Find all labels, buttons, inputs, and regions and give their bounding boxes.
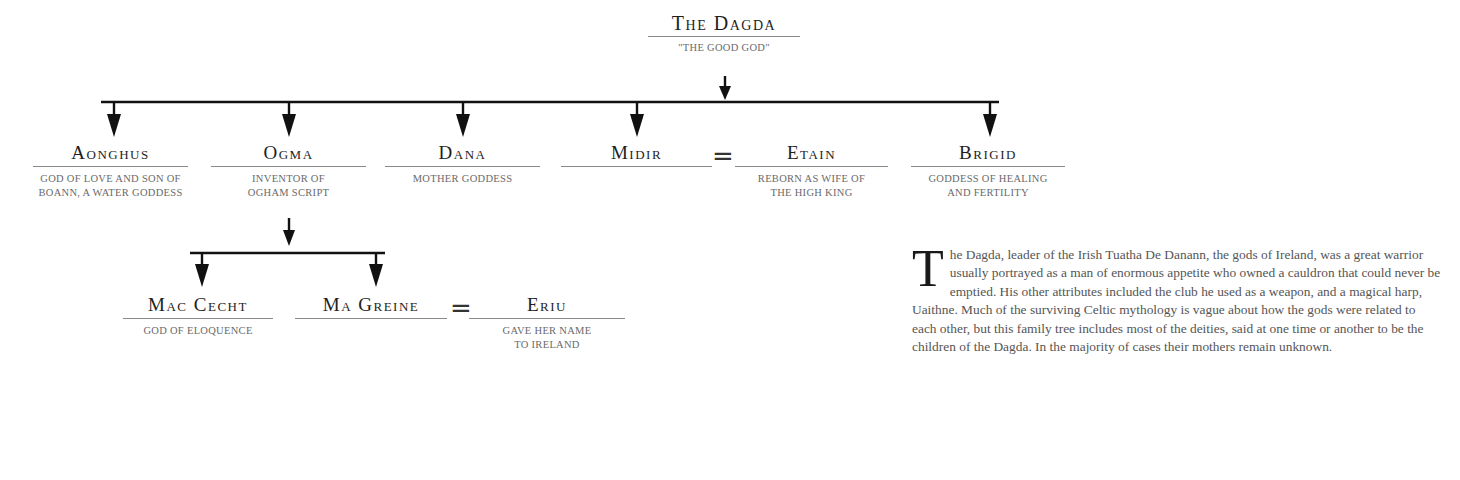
node-name: Etain: [735, 142, 888, 164]
node-name: Ogma: [211, 142, 366, 164]
node-desc: "The Good God": [648, 41, 800, 55]
node-rule: [211, 166, 366, 167]
node-name: Dana: [385, 142, 540, 164]
node-rule: [561, 166, 712, 167]
node-the-dagda: The Dagda "The Good God": [648, 12, 800, 55]
node-name: Brigid: [911, 142, 1065, 164]
node-name: The Dagda: [648, 12, 800, 34]
node-desc: God of love and son of Boann, a water go…: [33, 172, 188, 200]
node-desc: Inventor of Ogham script: [211, 172, 366, 200]
node-name: Ma Greine: [295, 294, 447, 316]
node-ogma: Ogma Inventor of Ogham script: [211, 142, 366, 200]
node-desc: Gave her name to Ireland: [469, 324, 625, 352]
node-mac-cecht: Mac Cecht God of eloquence: [123, 294, 273, 338]
node-rule: [469, 318, 625, 319]
node-eriu: Eriu Gave her name to Ireland: [469, 294, 625, 352]
paragraph-body: he Dagda, leader of the Irish Tuatha De …: [912, 247, 1440, 354]
node-aonghus: Aonghus God of love and son of Boann, a …: [33, 142, 188, 200]
marriage-symbol-midir-etain: =: [712, 143, 734, 169]
node-etain: Etain Reborn as wife of the High King: [735, 142, 888, 200]
node-rule: [385, 166, 540, 167]
node-dana: Dana Mother goddess: [385, 142, 540, 186]
node-brigid: Brigid Goddess of healing and fertility: [911, 142, 1065, 200]
node-rule: [295, 318, 447, 319]
node-midir: Midir: [561, 142, 712, 167]
node-name: Mac Cecht: [123, 294, 273, 316]
node-name: Aonghus: [33, 142, 188, 164]
description-paragraph: The Dagda, leader of the Irish Tuatha De…: [912, 246, 1442, 356]
node-rule: [911, 166, 1065, 167]
node-rule: [735, 166, 888, 167]
node-rule: [123, 318, 273, 319]
node-desc: Goddess of healing and fertility: [911, 172, 1065, 200]
node-rule: [648, 36, 800, 37]
node-rule: [33, 166, 188, 167]
tree-connectors: [0, 0, 1460, 480]
drop-cap: T: [912, 249, 944, 289]
node-desc: Reborn as wife of the High King: [735, 172, 888, 200]
node-desc: God of eloquence: [123, 324, 273, 338]
node-ma-greine: Ma Greine: [295, 294, 447, 319]
node-name: Eriu: [469, 294, 625, 316]
node-name: Midir: [561, 142, 712, 164]
node-desc: Mother goddess: [385, 172, 540, 186]
